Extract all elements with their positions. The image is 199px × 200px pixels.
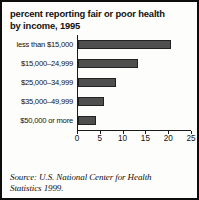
- y-axis-tick-label: $35,000–49,999: [8, 97, 77, 106]
- y-axis-tick-label: less than $15,000: [8, 40, 77, 49]
- bar-row: [78, 40, 191, 49]
- bar: [78, 40, 171, 49]
- chart-figure: percent reporting fair or poor health by…: [0, 0, 199, 200]
- chart-title-line-1: percent reporting fair or poor health: [10, 8, 191, 20]
- source-line-1: Source: U.S. National Center for Health: [10, 172, 191, 183]
- bars-container: [78, 35, 191, 130]
- x-axis-tick-label: 0: [75, 134, 80, 143]
- x-axis-tick-label: 15: [141, 134, 150, 143]
- bar: [78, 116, 96, 125]
- bar: [78, 59, 138, 68]
- source-caption: Source: U.S. National Center for Health …: [10, 172, 191, 193]
- chart-title-line-2: by income, 1995: [10, 20, 191, 32]
- bar-row: [78, 78, 191, 87]
- bars-region: [77, 35, 191, 130]
- bar-row: [78, 116, 191, 125]
- bar-row: [78, 59, 191, 68]
- x-axis-tick-label: 10: [118, 134, 127, 143]
- y-axis-tick-label: $50,000 or more: [8, 116, 77, 125]
- x-axis-tick-label: 25: [186, 134, 195, 143]
- y-axis-tick-label: $15,000–24,999: [8, 59, 77, 68]
- x-axis-tick-label: 5: [98, 134, 103, 143]
- bar-row: [78, 97, 191, 106]
- y-axis-category-labels: less than $15,000 $15,000–24,999 $25,000…: [8, 35, 77, 130]
- bar: [78, 78, 116, 87]
- source-line-2: Statistics 1999.: [10, 183, 191, 194]
- plot-area: less than $15,000 $15,000–24,999 $25,000…: [8, 35, 191, 135]
- chart-title: percent reporting fair or poor health by…: [10, 8, 191, 31]
- y-axis-tick-label: $25,000–34,999: [8, 78, 77, 87]
- x-axis-tick-labels: 0510152025: [77, 134, 191, 146]
- x-axis-tick-label: 20: [164, 134, 173, 143]
- bar: [78, 97, 104, 106]
